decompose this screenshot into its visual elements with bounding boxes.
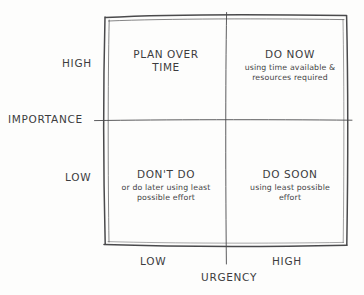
divider-horizontal <box>95 120 353 121</box>
quadrant-subtitle: or do later using least possible effort <box>112 183 220 202</box>
divider-vertical <box>226 13 227 265</box>
frame-bottom-outer <box>104 245 347 247</box>
quadrant-title: DO SOON <box>236 168 344 181</box>
quadrant-do-soon: DO SOON using least possible effort <box>236 168 344 203</box>
quadrant-title: PLAN OVER TIME <box>112 48 220 74</box>
x-axis-low-label: LOW <box>140 255 166 267</box>
y-axis-title: IMPORTANCE <box>8 113 83 125</box>
frame-top-inner <box>109 19 345 21</box>
matrix-sketch-lines <box>0 0 364 295</box>
quadrant-subtitle: using least possible effort <box>236 183 344 202</box>
frame-left-inner <box>108 20 109 242</box>
quadrant-title: DON'T DO <box>112 168 220 181</box>
frame-left-outer <box>104 17 105 244</box>
quadrant-title: DO NOW <box>236 48 344 61</box>
x-axis-high-label: HIGH <box>272 255 302 267</box>
x-axis-title: URGENCY <box>201 271 257 283</box>
frame-bottom-inner <box>108 242 343 244</box>
eisenhower-matrix-diagram: PLAN OVER TIME DO NOW using time availab… <box>0 0 364 295</box>
frame-top-outer <box>106 15 347 18</box>
quadrant-plan-over-time: PLAN OVER TIME <box>112 48 220 76</box>
quadrant-do-now: DO NOW using time available & resources … <box>236 48 344 83</box>
y-axis-high-label: HIGH <box>62 57 92 69</box>
quadrant-dont-do: DON'T DO or do later using least possibl… <box>112 168 220 203</box>
frame-right-outer <box>347 16 348 245</box>
quadrant-subtitle: using time available & resources require… <box>236 63 344 82</box>
y-axis-low-label: LOW <box>65 171 91 183</box>
